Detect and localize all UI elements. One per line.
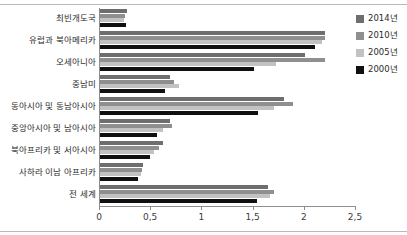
bar <box>100 185 268 189</box>
bar-chart: 00,511,522,5 최빈개도국유럽과 북아메리카오세아니아중남미동아시아 … <box>0 0 407 235</box>
bar <box>100 111 258 115</box>
bar <box>100 23 126 27</box>
bar <box>100 14 125 18</box>
bar <box>100 194 270 198</box>
bar <box>100 53 305 57</box>
x-tick-label: 1,5 <box>245 212 259 222</box>
bar <box>100 199 257 203</box>
bar <box>100 84 179 88</box>
bar <box>100 75 170 79</box>
bar <box>100 40 322 44</box>
bar <box>100 45 315 49</box>
legend-swatch-icon <box>356 49 364 57</box>
category-label: 최빈개도국 <box>56 13 96 23</box>
x-tick <box>201 206 202 210</box>
bar-group: 중남미 <box>100 74 356 96</box>
legend-swatch-icon <box>356 15 364 23</box>
legend-item[interactable]: 2010년 <box>356 27 407 44</box>
top-divider <box>0 4 407 5</box>
legend-label: 2014년 <box>368 14 398 23</box>
bar <box>100 106 274 110</box>
legend-item[interactable]: 2005년 <box>356 44 407 61</box>
bar <box>100 9 127 13</box>
chart-legend: 2014년2010년2005년2000년 <box>356 10 407 78</box>
bar <box>100 150 154 154</box>
x-tick <box>304 206 305 210</box>
bar-group: 최빈개도국 <box>100 8 356 30</box>
bar-group: 사하라 이남 아프리카 <box>100 162 356 184</box>
legend-label: 2000년 <box>368 65 398 74</box>
x-tick <box>355 206 356 210</box>
bar <box>100 177 138 181</box>
bar-group: 동아시아 및 동남아시아 <box>100 96 356 118</box>
x-tick <box>253 206 254 210</box>
bar <box>100 128 163 132</box>
bar <box>100 133 157 137</box>
bar <box>100 62 276 66</box>
bar <box>100 146 159 150</box>
bar <box>100 190 274 194</box>
bar <box>100 18 124 22</box>
bar <box>100 97 284 101</box>
x-tick-label: 1 <box>199 212 205 222</box>
x-tick <box>99 206 100 210</box>
plot-area: 00,511,522,5 최빈개도국유럽과 북아메리카오세아니아중남미동아시아 … <box>99 8 355 206</box>
bar-group: 유럽과 북아메리카 <box>100 30 356 52</box>
bar <box>100 67 254 71</box>
legend-swatch-icon <box>356 32 364 40</box>
legend-label: 2010년 <box>368 31 398 40</box>
bar-group: 북아프리카 및 서아시아 <box>100 140 356 162</box>
bar <box>100 141 163 145</box>
bar <box>100 119 170 123</box>
bar <box>100 89 165 93</box>
bar <box>100 155 150 159</box>
bar <box>100 31 325 35</box>
legend-label: 2005년 <box>368 48 398 57</box>
bar <box>100 58 325 62</box>
category-label: 유럽과 북아메리카 <box>29 35 96 45</box>
bar-group: 전 세계 <box>100 184 356 206</box>
category-label: 북아프리카 및 서아시아 <box>11 145 96 155</box>
x-tick-label: 0 <box>96 212 102 222</box>
category-label: 사하라 이남 아프리카 <box>19 167 96 177</box>
legend-swatch-icon <box>356 66 364 74</box>
bar <box>100 102 293 106</box>
x-tick <box>150 206 151 210</box>
bar <box>100 124 172 128</box>
x-axis-line <box>99 206 355 207</box>
category-label: 중남미 <box>72 79 96 89</box>
legend-item[interactable]: 2014년 <box>356 10 407 27</box>
bar-group: 오세아니아 <box>100 52 356 74</box>
bar <box>100 36 325 40</box>
category-label: 전 세계 <box>69 189 96 199</box>
bar-group: 중앙아시아 및 남아시아 <box>100 118 356 140</box>
x-tick-label: 2 <box>301 212 307 222</box>
bar <box>100 168 142 172</box>
bar <box>100 172 141 176</box>
x-tick-label: 0,5 <box>143 212 157 222</box>
bottom-divider <box>0 231 407 232</box>
bar <box>100 163 143 167</box>
bar <box>100 80 174 84</box>
legend-item[interactable]: 2000년 <box>356 61 407 78</box>
category-label: 동아시아 및 동남아시아 <box>11 101 96 111</box>
category-label: 중앙아시아 및 남아시아 <box>11 123 96 133</box>
x-tick-label: 2,5 <box>348 212 362 222</box>
category-label: 오세아니아 <box>56 57 96 67</box>
